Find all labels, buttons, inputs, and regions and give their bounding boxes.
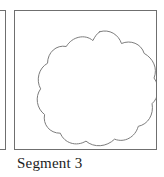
segment-outline-blob-icon bbox=[37, 31, 156, 146]
segment-image-frame bbox=[14, 10, 157, 150]
figure-caption: Segment 3 bbox=[17, 152, 164, 174]
segment-shape-canvas bbox=[15, 11, 156, 149]
neighbor-panel-frame bbox=[0, 10, 6, 150]
figure-panel: Segment 3 bbox=[0, 0, 164, 177]
